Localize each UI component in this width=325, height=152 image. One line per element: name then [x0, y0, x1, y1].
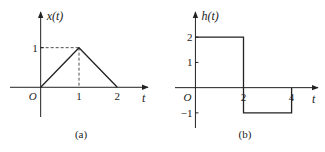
panel-label-b: (b) — [239, 128, 252, 141]
x-tick-label-b: 2 — [241, 91, 247, 103]
y-axis-label-b: h(t) — [201, 9, 218, 23]
y-tick-label-a: 1 — [32, 42, 38, 54]
y-axis-label-a: x(t) — [46, 9, 64, 23]
y-tick-label-b: 2 — [187, 31, 193, 43]
x-axis-label-a: t — [142, 91, 146, 105]
y-tick-label-b: −1 — [181, 107, 193, 119]
x-tick-label-a: 1 — [76, 90, 82, 102]
origin-label-b: O — [183, 91, 191, 103]
chart-a: 121 x(t) t O (a) — [10, 9, 148, 141]
x-tick-label-b: 4 — [289, 91, 295, 103]
origin-label-a: O — [29, 90, 37, 102]
y-tick-label-b: 1 — [187, 56, 193, 68]
chart-b: 2421−1 h(t) t O (b) — [175, 9, 318, 141]
x-tick-label-a: 2 — [115, 90, 121, 102]
figure: 121 x(t) t O (a) 2421−1 h(t) t O (b) — [0, 0, 325, 152]
x-axis-label-b: t — [312, 92, 316, 106]
panel-label-a: (a) — [75, 128, 88, 141]
